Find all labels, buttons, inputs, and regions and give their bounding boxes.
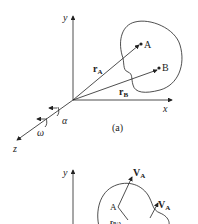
velocity-VA-2: [150, 203, 158, 218]
panel-b: y A VA rB/A VA: [62, 167, 170, 224]
velocity-VA-1: [118, 177, 132, 207]
y-axis-label: y: [62, 12, 68, 23]
panel-a-caption: (a): [112, 122, 123, 134]
point-B-dot: [157, 66, 160, 69]
diagram: y x z A rA B rB α ω (a) y A V: [0, 0, 198, 224]
vector-rB: [73, 70, 157, 100]
velocity-VA-2-label: VA: [158, 199, 170, 212]
point-A-label-b: A: [110, 202, 117, 212]
vector-rA-label: rA: [93, 63, 103, 76]
point-B-label: B: [162, 62, 169, 73]
alpha-label: α: [62, 115, 68, 126]
vector-rBA-label: rB/A: [110, 218, 122, 224]
omega-label: ω: [37, 127, 44, 138]
y-axis-b-label: y: [62, 167, 68, 178]
x-axis-label: x: [162, 103, 168, 114]
point-A-label: A: [144, 39, 152, 50]
vector-rBA: [118, 207, 128, 220]
point-A-dot: [139, 42, 142, 45]
velocity-VA-1-label: VA: [133, 167, 145, 180]
vector-rB-label: rB: [119, 86, 128, 99]
z-axis-label: z: [12, 143, 17, 154]
rigid-body-outline: [121, 21, 182, 92]
panel-a: y x z A rA B rB α ω (a): [12, 12, 182, 154]
